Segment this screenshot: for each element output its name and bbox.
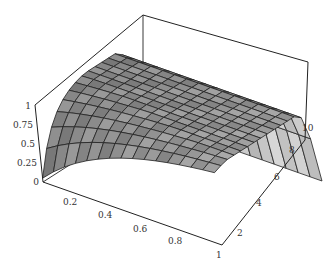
x-tick: 0.8 — [168, 236, 183, 246]
y-tick: 10 — [302, 123, 314, 133]
z-tick: 0.25 — [17, 158, 37, 168]
y-tick: 4 — [256, 198, 262, 208]
y-tick: 6 — [274, 172, 280, 182]
z-tick: 0.5 — [21, 139, 36, 149]
x-tick: 0.6 — [133, 224, 148, 234]
x-tick: 1 — [216, 250, 222, 260]
z-tick: 1 — [25, 101, 31, 111]
x-tick: 0.2 — [63, 197, 77, 207]
z-tick: 0 — [33, 177, 39, 187]
z-axis-ticks: 1 0.75 0.5 0.25 0 — [13, 101, 39, 187]
y-tick: 8 — [289, 145, 295, 155]
x-tick: 0.4 — [98, 210, 113, 220]
y-tick: 2 — [237, 228, 243, 238]
x-axis-ticks: 0.2 0.4 0.6 0.8 1 — [63, 197, 222, 260]
surface-mesh — [43, 54, 322, 181]
surface-plot: 1 0.75 0.5 0.25 0 0.2 0.4 0.6 0.8 1 2 4 … — [0, 0, 325, 269]
z-tick: 0.75 — [13, 120, 33, 130]
